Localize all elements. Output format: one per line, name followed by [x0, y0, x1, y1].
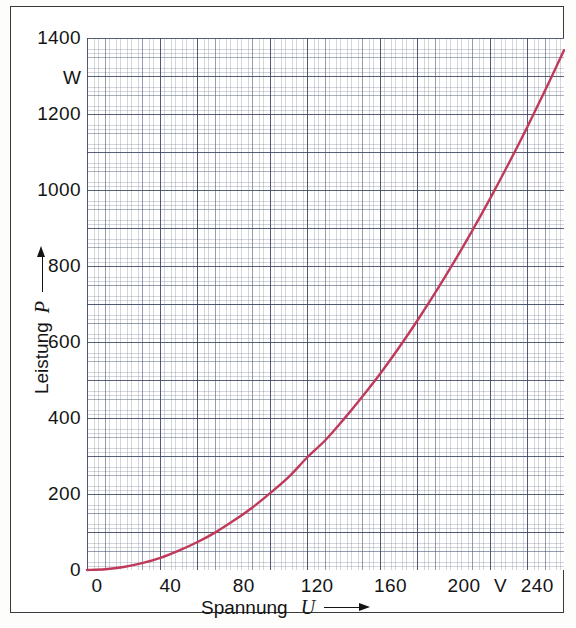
- x-tick-label: 240: [521, 575, 554, 597]
- x-axis-unit: V: [494, 575, 507, 597]
- x-axis-title: Spannung U: [201, 596, 370, 619]
- x-tick-label: 200: [447, 575, 480, 597]
- y-tick-label: 800: [17, 255, 81, 277]
- figure-canvas: W Leistung P 0200400600800100012001400 0…: [0, 0, 576, 628]
- data-curve: [87, 38, 564, 570]
- x-tick-label: 40: [159, 575, 181, 597]
- x-axis-arrow-icon: [324, 603, 370, 613]
- y-tick-label: 1400: [17, 27, 81, 49]
- x-tick-label: 0: [92, 575, 103, 597]
- x-axis-variable: U: [301, 596, 315, 619]
- curve-path: [87, 50, 564, 570]
- figure-frame: W Leistung P 0200400600800100012001400 0…: [10, 6, 564, 613]
- y-tick-label: 1200: [17, 103, 81, 125]
- y-tick-label: 400: [17, 407, 81, 429]
- plot-area: [87, 38, 564, 570]
- x-tick-label: 160: [374, 575, 407, 597]
- y-axis-tick-labels: 0200400600800100012001400: [11, 38, 81, 570]
- y-tick-label: 1000: [17, 179, 81, 201]
- x-tick-label: 120: [301, 575, 334, 597]
- x-tick-label: 80: [233, 575, 255, 597]
- y-tick-label: 200: [17, 483, 81, 505]
- y-tick-label: 600: [17, 331, 81, 353]
- x-axis-title-text: Spannung: [201, 597, 288, 619]
